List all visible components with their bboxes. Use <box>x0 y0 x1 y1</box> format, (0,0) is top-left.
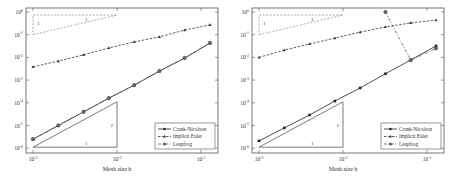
x-axis-label: Mesh size h <box>329 166 358 172</box>
y-tick-label: 10-3 <box>14 77 23 84</box>
svg-text:1: 1 <box>263 21 266 26</box>
x-tick-label: 10-3 <box>255 156 264 163</box>
y-tick-label: 10-5 <box>240 122 249 129</box>
y-tick-label: 10-1 <box>240 31 249 38</box>
data-point-marker <box>384 10 388 14</box>
legend-entry-label: Leapfrog <box>399 141 418 147</box>
legend-entry-label: Leapfrog <box>173 141 192 147</box>
svg-text:1: 1 <box>311 17 314 22</box>
data-point-marker <box>56 124 60 128</box>
svg-text:1: 1 <box>85 17 88 22</box>
svg-text:2: 2 <box>111 123 114 128</box>
data-point-marker <box>183 56 187 60</box>
series-line-implicit-euler <box>259 20 436 57</box>
slope-triangle-order-1 <box>259 15 343 35</box>
data-point-marker <box>107 46 110 49</box>
y-tick-label: 10-6 <box>240 145 249 152</box>
legend: Crank-NicolsonImplicit EulerLeapfrog <box>381 123 441 149</box>
y-tick-label: 10-5 <box>14 122 23 129</box>
x-tick-label: 10-3 <box>29 156 38 163</box>
chart-panel-left: 10010-110-210-310-410-510-610-310-210-1M… <box>0 0 226 177</box>
y-tick-label: 100 <box>242 9 250 16</box>
legend-entry-label: Implicit Euler <box>399 133 428 139</box>
data-point-marker <box>132 83 136 87</box>
data-point-marker <box>384 72 387 75</box>
legend-entry-label: Implicit Euler <box>173 133 202 139</box>
chart-panel-right: 10010-110-210-310-410-510-610-310-210-1M… <box>226 0 452 177</box>
x-tick-label: 10-2 <box>339 156 348 163</box>
data-point-marker <box>208 41 212 45</box>
data-point-marker <box>359 87 362 90</box>
data-point-marker <box>57 59 60 62</box>
data-point-marker <box>82 110 86 114</box>
y-tick-label: 100 <box>16 9 24 16</box>
slope-triangle-order-2 <box>259 102 343 147</box>
y-tick-label: 10-2 <box>240 54 249 61</box>
data-point-marker <box>31 137 35 141</box>
slope-triangle-order-1 <box>33 15 117 35</box>
data-point-marker <box>107 96 111 100</box>
convergence-plot: 10010-110-210-310-410-510-610-310-210-1M… <box>226 0 452 177</box>
data-point-marker <box>434 47 438 51</box>
y-tick-label: 10-1 <box>14 31 23 38</box>
legend-entry-label: Crank-Nicolson <box>399 126 433 132</box>
series-line-implicit-euler <box>33 25 210 67</box>
data-point-marker <box>384 25 387 28</box>
data-point-marker <box>333 36 336 39</box>
y-tick-label: 10-3 <box>240 77 249 84</box>
x-axis-label: Mesh size h <box>103 166 132 172</box>
x-tick-label: 10-2 <box>113 156 122 163</box>
y-tick-label: 10-4 <box>240 99 249 106</box>
slope-triangle-order-2 <box>33 102 117 147</box>
x-tick-label: 10-1 <box>197 156 206 163</box>
svg-text:2: 2 <box>337 123 340 128</box>
convergence-plot: 10010-110-210-310-410-510-610-310-210-1M… <box>0 0 226 177</box>
data-point-marker <box>209 23 212 26</box>
data-point-marker <box>283 127 286 130</box>
y-tick-label: 10-6 <box>14 145 23 152</box>
legend-entry-label: Crank-Nicolson <box>173 126 207 132</box>
data-point-marker <box>158 69 162 73</box>
y-tick-label: 10-4 <box>14 99 23 106</box>
svg-text:1: 1 <box>85 141 88 146</box>
legend: Crank-NicolsonImplicit EulerLeapfrog <box>155 123 215 149</box>
data-point-marker <box>409 58 413 62</box>
x-tick-label: 10-1 <box>423 156 432 163</box>
y-tick-label: 10-2 <box>14 54 23 61</box>
svg-text:1: 1 <box>37 21 40 26</box>
data-point-marker <box>158 35 161 38</box>
svg-text:1: 1 <box>311 141 314 146</box>
data-point-marker <box>258 140 261 143</box>
data-point-marker <box>283 48 286 51</box>
data-point-marker <box>334 100 337 103</box>
data-point-marker <box>308 114 311 117</box>
series-line-leapfrog <box>385 12 436 60</box>
